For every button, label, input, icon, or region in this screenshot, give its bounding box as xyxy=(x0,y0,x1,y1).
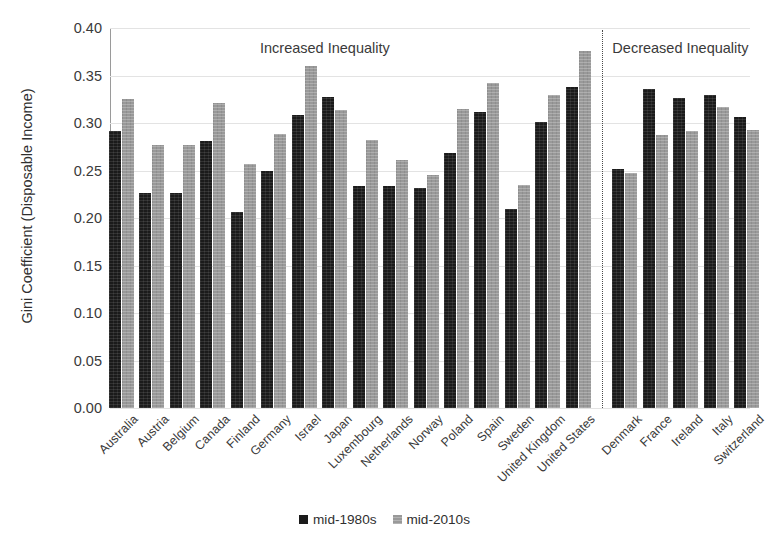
x-axis-tick-label: Poland xyxy=(439,412,477,450)
bar-group xyxy=(612,28,637,408)
bar xyxy=(274,134,286,408)
bar xyxy=(487,83,499,408)
annotation-increased-inequality: Increased Inequality xyxy=(260,40,390,56)
y-axis-tick-label: 0.05 xyxy=(38,354,102,369)
legend-swatch-icon xyxy=(299,515,308,524)
annotation-decreased-inequality: Decreased Inequality xyxy=(612,40,748,56)
bar xyxy=(414,188,426,408)
y-axis-tick-label: 0.15 xyxy=(38,259,102,274)
y-axis-tick-label: 0.10 xyxy=(38,306,102,321)
bar-group xyxy=(109,28,134,408)
bar-group xyxy=(353,28,378,408)
y-axis-tick-labels: 0.000.050.100.150.200.250.300.350.40 xyxy=(36,0,102,542)
bar xyxy=(244,164,256,408)
bar xyxy=(139,193,151,408)
bar xyxy=(704,95,716,408)
bar xyxy=(213,103,225,408)
y-axis-tick-label: 0.00 xyxy=(38,401,102,416)
bar xyxy=(747,130,759,408)
bar xyxy=(686,131,698,408)
chart-legend: mid-1980smid-2010s xyxy=(0,512,769,527)
bar xyxy=(734,117,746,408)
bar-group xyxy=(673,28,698,408)
bar xyxy=(200,141,212,408)
bar xyxy=(717,107,729,408)
legend-item[interactable]: mid-1980s xyxy=(299,512,376,527)
bar xyxy=(353,186,365,408)
bar xyxy=(152,145,164,408)
bar-group xyxy=(444,28,469,408)
y-axis-tick-label: 0.20 xyxy=(38,211,102,226)
bar-group xyxy=(261,28,286,408)
chart-figure: Gini Coefficient (Disposable Income) 0.0… xyxy=(0,0,769,542)
bar xyxy=(612,169,624,408)
bar xyxy=(656,135,668,408)
bar-group xyxy=(231,28,256,408)
y-axis-tick-label: 0.40 xyxy=(38,21,102,36)
bar-group xyxy=(734,28,759,408)
bar xyxy=(505,209,517,408)
legend-swatch-icon xyxy=(393,515,402,524)
bar xyxy=(457,109,469,408)
plot-area xyxy=(110,28,750,408)
bar-group xyxy=(292,28,317,408)
y-axis-title: Gini Coefficient (Disposable Income) xyxy=(19,11,35,401)
bar-group xyxy=(643,28,668,408)
bar-group xyxy=(139,28,164,408)
bar xyxy=(566,87,578,408)
bar xyxy=(673,98,685,408)
bar xyxy=(535,122,547,408)
bar xyxy=(625,173,637,408)
x-axis-tick-label: Denmark xyxy=(599,412,645,458)
bar-group xyxy=(322,28,347,408)
legend-item[interactable]: mid-2010s xyxy=(393,512,470,527)
bar xyxy=(579,51,591,408)
bar xyxy=(643,89,655,408)
bar xyxy=(292,115,304,408)
bar-group xyxy=(566,28,591,408)
bar-group xyxy=(704,28,729,408)
x-axis-tick-label: Australia xyxy=(97,412,142,457)
bar xyxy=(183,145,195,408)
bar xyxy=(518,185,530,408)
bar-group xyxy=(414,28,439,408)
legend-label: mid-1980s xyxy=(313,512,376,527)
bar xyxy=(444,153,456,408)
x-axis-tick-label: Israel xyxy=(292,412,324,444)
gridline xyxy=(110,408,750,409)
bar xyxy=(366,140,378,408)
bar xyxy=(122,99,134,408)
bar xyxy=(109,131,121,408)
y-axis-tick-label: 0.30 xyxy=(38,116,102,131)
bar xyxy=(396,160,408,408)
bar xyxy=(335,110,347,408)
bar-group xyxy=(383,28,408,408)
x-axis-tick-label: Ireland xyxy=(669,412,706,449)
bar-group xyxy=(505,28,530,408)
bar xyxy=(427,175,439,408)
bar xyxy=(170,193,182,408)
y-axis-tick-label: 0.35 xyxy=(38,69,102,84)
x-axis-tick-label: France xyxy=(638,412,676,450)
bar-group xyxy=(535,28,560,408)
legend-label: mid-2010s xyxy=(407,512,470,527)
section-divider xyxy=(602,30,603,408)
x-axis-tick-label: Italy xyxy=(710,412,736,438)
bar-group xyxy=(170,28,195,408)
bar-group xyxy=(474,28,499,408)
bar xyxy=(322,97,334,408)
bar-group xyxy=(200,28,225,408)
bar xyxy=(548,95,560,408)
bar xyxy=(261,171,273,409)
bar xyxy=(383,186,395,408)
bar xyxy=(305,66,317,408)
bar xyxy=(474,112,486,408)
y-axis-tick-label: 0.25 xyxy=(38,164,102,179)
bar xyxy=(231,212,243,408)
